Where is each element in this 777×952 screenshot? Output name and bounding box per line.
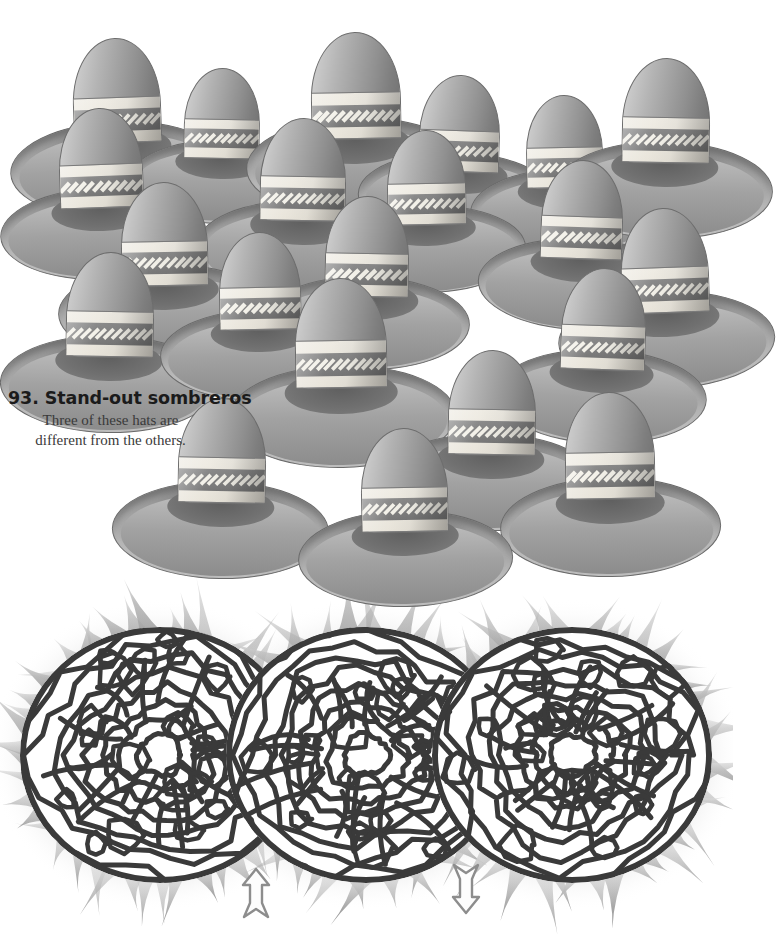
sombrero-crown <box>65 251 155 359</box>
band-stripe <box>622 128 708 151</box>
sombrero-hat <box>296 426 512 607</box>
band-stripe <box>66 322 152 345</box>
puzzle-title-block: 93. Stand-out sombreros Three of these h… <box>8 388 238 451</box>
maze-exit-down-arrow-icon <box>453 865 479 913</box>
band-stripe <box>566 464 654 488</box>
instruction-line-2: different from the others. <box>35 432 186 448</box>
page-title: 93. Stand-out sombreros <box>8 388 238 408</box>
sombrero-band <box>178 457 265 504</box>
instruction-line-1: Three of these hats are <box>43 412 179 428</box>
sombrero-crown <box>621 57 711 165</box>
sombrero-crown <box>293 277 387 390</box>
sombrero-crown <box>360 427 449 533</box>
band-stripe <box>178 468 264 491</box>
sombrero-band <box>296 339 387 388</box>
band-stripe <box>296 352 387 376</box>
sombrero-crown <box>564 391 656 501</box>
band-stripe <box>362 498 447 521</box>
puzzle-instructions: Three of these hats are different from t… <box>8 411 213 451</box>
maze-graphic <box>0 575 733 952</box>
sombrero-band <box>362 486 448 533</box>
maze-wall <box>606 761 653 764</box>
sombrero-puzzle-illustration <box>0 0 733 575</box>
maze-paths <box>9 623 723 887</box>
sombrero-band <box>566 452 655 500</box>
sombrero-hat <box>498 390 720 577</box>
sombrero-band <box>66 311 153 358</box>
maze-puzzle-illustration <box>0 575 733 952</box>
sombrero-band <box>622 117 709 164</box>
